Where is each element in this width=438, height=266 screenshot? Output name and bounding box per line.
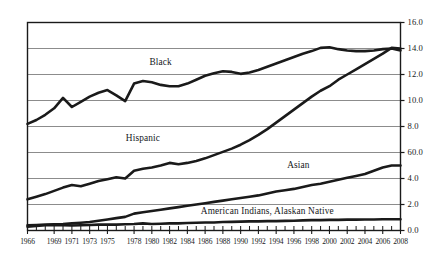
chart-figure: 16.014.012.010.08.060.04.02.00.0 1966196…	[0, 0, 438, 266]
x-tick-label: 2002	[340, 238, 355, 246]
y-tick-label: 60.0	[408, 148, 423, 157]
x-tick-label: 1971	[65, 238, 80, 246]
series-line-asian	[28, 166, 401, 226]
y-tick-label: 10.0	[408, 96, 423, 105]
series-label-asian: Asian	[287, 161, 309, 170]
x-tick-label: 1969	[47, 238, 62, 246]
x-tick-label: 1982	[162, 238, 177, 246]
y-tick-label: 2.0	[408, 200, 419, 209]
series-label-hispanic: Hispanic	[126, 134, 160, 143]
y-tick-label: 0.0	[408, 226, 419, 235]
x-tick-label: 2006	[375, 238, 390, 246]
series-line-hispanic	[28, 48, 401, 199]
y-tick-label: 14.0	[408, 44, 423, 53]
x-tick-label: 1988	[216, 238, 231, 246]
x-tick-label: 1998	[304, 238, 319, 246]
x-tick-label: 2000	[322, 238, 337, 246]
series-label-american-indians: American Indians, Alaskan Native	[201, 207, 334, 216]
series-line-black	[28, 47, 401, 124]
x-tick-label: 1986	[198, 238, 213, 246]
x-tick-label: 1994	[269, 238, 284, 246]
x-tick-label: 1978	[127, 238, 142, 246]
y-tick-label: 16.0	[408, 18, 423, 27]
y-tick-label: 12.0	[408, 70, 423, 79]
x-tick-label: 1990	[233, 238, 248, 246]
x-tick-label: 1980	[145, 238, 160, 246]
x-tick-label: 1992	[251, 238, 266, 246]
x-tick-label: 1966	[20, 238, 35, 246]
x-tick-label: 2008	[393, 238, 408, 246]
y-tick-label: 8.0	[408, 122, 419, 131]
series-label-black: Black	[149, 58, 171, 67]
y-tick-label: 4.0	[408, 174, 419, 183]
chart-canvas	[0, 0, 438, 266]
x-tick-label: 1996	[287, 238, 302, 246]
x-tick-label: 1975	[100, 238, 115, 246]
x-tick-label: 1973	[82, 238, 97, 246]
x-tick-label: 1984	[180, 238, 195, 246]
x-tick-label: 2004	[358, 238, 373, 246]
